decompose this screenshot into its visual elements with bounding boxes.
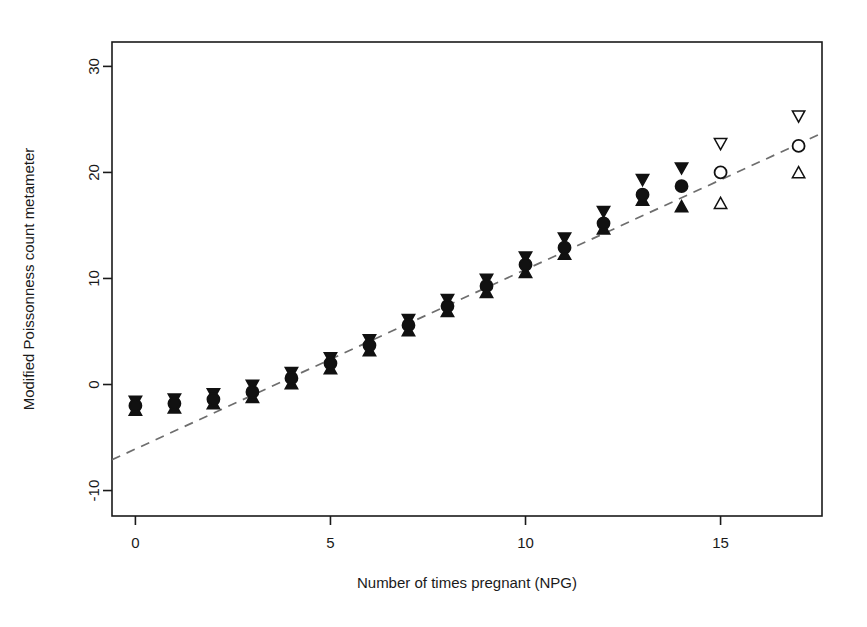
lower-bound-marker <box>714 197 726 208</box>
count-metameter-point <box>207 393 219 405</box>
count-metameter-point <box>402 319 414 331</box>
poissonness-plot-figure: 051015-100102030Number of times pregnant… <box>0 0 867 627</box>
x-tick-label-15: 15 <box>712 534 729 551</box>
fitted-poissonness-line <box>112 133 822 460</box>
y-tick-label-10: 10 <box>86 270 103 287</box>
count-metameter-point <box>481 280 493 292</box>
upper-bound-marker <box>714 139 726 150</box>
x-tick-label-0: 0 <box>131 534 139 551</box>
count-metameter-point <box>246 386 258 398</box>
plot-area <box>112 111 822 460</box>
y-axis-title: Modified Poissonness count metameter <box>20 148 37 411</box>
count-metameter-point <box>598 217 610 229</box>
upper-bound-marker <box>675 163 687 174</box>
count-metameter-point <box>441 300 453 312</box>
y-tick-label--10: -10 <box>86 480 103 502</box>
count-metameter-point <box>559 242 571 254</box>
lower-bound-marker <box>675 200 687 211</box>
count-metameter-point <box>793 140 805 152</box>
count-metameter-point <box>676 180 688 192</box>
count-metameter-point <box>168 398 180 410</box>
x-axis-title: Number of times pregnant (NPG) <box>357 574 577 591</box>
upper-bound-marker <box>597 206 609 217</box>
count-metameter-point <box>520 259 532 271</box>
count-metameter-point <box>363 339 375 351</box>
y-tick-label-20: 20 <box>86 164 103 181</box>
lower-bound-marker <box>792 167 804 178</box>
y-tick-label-0: 0 <box>86 380 103 388</box>
count-metameter-point <box>324 357 336 369</box>
chart-canvas: 051015-100102030Number of times pregnant… <box>0 0 867 627</box>
count-metameter-point <box>285 372 297 384</box>
count-metameter-point <box>715 166 727 178</box>
plot-frame <box>112 42 822 516</box>
count-metameter-point <box>129 400 141 412</box>
x-tick-label-5: 5 <box>326 534 334 551</box>
count-metameter-point <box>637 189 649 201</box>
y-tick-label-30: 30 <box>86 58 103 75</box>
upper-bound-marker <box>636 175 648 186</box>
x-tick-label-10: 10 <box>517 534 534 551</box>
upper-bound-marker <box>792 111 804 122</box>
